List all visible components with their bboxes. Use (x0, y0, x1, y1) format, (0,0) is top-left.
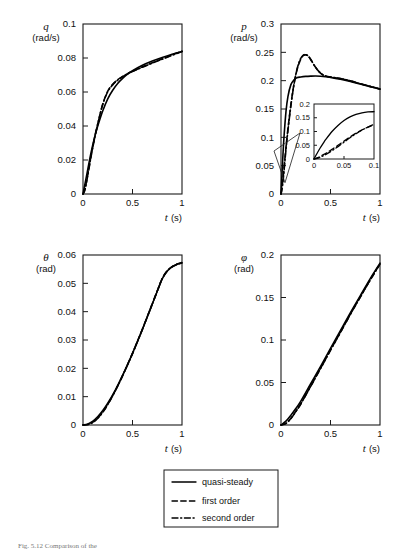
x-tick-label: 0 (80, 197, 85, 208)
panel-p-plot: 00.050.10.150.20.250.300.51p(rad/s)t(s)0… (230, 18, 382, 223)
panel-phi-plot: 00.050.10.150.200.51φ(rad)t(s) (234, 249, 383, 454)
inset-y-tick-label: 0.2 (300, 100, 310, 109)
y-tick-label: 0.2 (261, 75, 274, 86)
y-tick-label: 0.2 (261, 249, 274, 260)
y-axis-variable-label: θ (43, 251, 49, 263)
legend-label-quasi-steady: quasi-steady (202, 477, 254, 487)
figure-caption: Fig. 5.12 Comparison of the (18, 542, 97, 550)
plot-frame-theta-plot (83, 255, 182, 425)
y-tick-label: 0.01 (58, 391, 77, 402)
x-axis-label: t(s) (363, 442, 380, 454)
inset-x-tick-label: 0.05 (337, 161, 352, 170)
y-axis-variable-label: q (43, 20, 49, 32)
legend-label-second-order: second order (202, 513, 255, 523)
inset-y-tick-label: 0.05 (295, 141, 310, 150)
y-tick-label: 0.1 (63, 18, 76, 29)
y-tick-label: 0.05 (58, 278, 77, 289)
y-tick-label: 0.15 (256, 103, 275, 114)
panel-q-plot: 00.020.040.060.080.100.51q(rad/s)t(s) (32, 18, 184, 223)
y-axis-unit-label: (rad) (36, 263, 56, 274)
y-tick-label: 0.1 (261, 334, 274, 345)
x-tick-label: 0 (80, 428, 85, 439)
x-tick-label: 0.5 (126, 428, 139, 439)
y-tick-label: 0 (269, 188, 274, 199)
y-tick-label: 0.05 (256, 160, 275, 171)
plot-frame-q-plot (83, 24, 182, 194)
x-axis-label: t(s) (165, 211, 182, 223)
legend: quasi-steadyfirst ordersecond order (164, 470, 278, 527)
y-tick-label: 0.15 (256, 292, 275, 303)
y-tick-label: 0.06 (58, 249, 77, 260)
curve-second-order (281, 264, 380, 425)
x-tick-label: 1 (377, 197, 382, 208)
curve-quasi-steady (83, 263, 182, 425)
y-tick-label: 0.02 (58, 363, 77, 374)
figure-container: 00.020.040.060.080.100.51q(rad/s)t(s)00.… (0, 0, 397, 550)
y-axis-unit-label: (rad) (234, 263, 254, 274)
y-tick-label: 0.25 (256, 47, 275, 58)
x-tick-label: 0.5 (126, 197, 139, 208)
inset-x-tick-label: 0 (312, 161, 316, 170)
y-tick-label: 0.04 (58, 306, 77, 317)
x-tick-label: 1 (179, 428, 184, 439)
y-tick-label: 0.05 (256, 377, 275, 388)
x-tick-label: 0.5 (324, 197, 337, 208)
y-tick-label: 0.1 (261, 132, 274, 143)
y-tick-label: 0.06 (58, 86, 77, 97)
y-axis-variable-label: p (240, 20, 247, 32)
y-tick-label: 0 (269, 419, 274, 430)
y-axis-unit-label: (rad/s) (230, 32, 257, 43)
figure-svg: 00.020.040.060.080.100.51q(rad/s)t(s)00.… (0, 0, 397, 550)
inset-y-tick-label: 0.15 (295, 113, 310, 122)
y-tick-label: 0 (71, 419, 76, 430)
y-tick-label: 0.08 (58, 52, 77, 63)
x-tick-label: 1 (377, 428, 382, 439)
inset-y-tick-label: 0 (306, 155, 310, 164)
y-tick-label: 0 (71, 188, 76, 199)
curve-first-order (83, 262, 182, 425)
inset-y-tick-label: 0.1 (300, 127, 310, 136)
legend-label-first-order: first order (202, 496, 240, 506)
curve-first-order (83, 51, 182, 194)
y-tick-label: 0.02 (58, 154, 77, 165)
y-axis-variable-label: φ (241, 251, 247, 263)
y-axis-unit-label: (rad/s) (32, 32, 59, 43)
plot-frame-phi-plot (281, 255, 380, 425)
x-axis-label: t(s) (165, 442, 182, 454)
y-tick-label: 0.3 (261, 18, 274, 29)
x-tick-label: 1 (179, 197, 184, 208)
curve-second-order (83, 263, 182, 425)
x-tick-label: 0 (278, 428, 283, 439)
y-tick-label: 0.03 (58, 334, 77, 345)
y-tick-label: 0.04 (58, 120, 77, 131)
panel-theta-plot: 00.010.020.030.040.050.0600.51θ(rad)t(s) (36, 249, 185, 454)
inset-x-tick-label: 0.1 (369, 161, 379, 170)
x-tick-label: 0.5 (324, 428, 337, 439)
x-tick-label: 0 (278, 197, 283, 208)
x-axis-label: t(s) (363, 211, 380, 223)
